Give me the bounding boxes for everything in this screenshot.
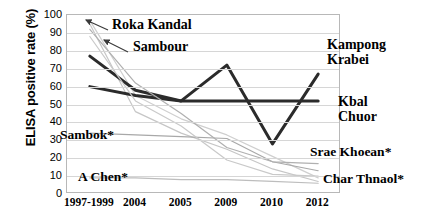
- y-tick-40: 40: [28, 115, 62, 127]
- annotation-roka-kandal: Roka Kandal: [112, 18, 192, 33]
- annotation-chuor: Chuor: [338, 110, 377, 125]
- x-tick-2005: 2005: [169, 196, 192, 208]
- elisa-positive-rate-line-chart: ELISA positive rate (%) 0102030405060708…: [0, 0, 433, 220]
- gridline-20: [67, 158, 339, 159]
- y-tick-30: 30: [28, 133, 62, 145]
- y-tick-10: 10: [28, 169, 62, 181]
- annotation-kampong: Kampong: [327, 38, 386, 53]
- y-tick-0: 0: [28, 187, 62, 199]
- annotation-kbal: Kbal: [338, 95, 368, 110]
- annotation-sambour: Sambour: [133, 40, 188, 55]
- series-line-sambok: [90, 133, 318, 171]
- gridline-90: [67, 33, 339, 34]
- gridline-70: [67, 69, 339, 70]
- y-axis-tick-labels: 0102030405060708090100: [28, 0, 62, 220]
- series-line-char-thnaol: [90, 36, 318, 176]
- y-tick-100: 100: [28, 8, 62, 20]
- x-tick-2009: 2009: [214, 196, 237, 208]
- gridline-50: [67, 105, 339, 106]
- y-tick-50: 50: [28, 98, 62, 110]
- gridline-40: [67, 122, 339, 123]
- series-line-roka-kandal: [90, 20, 318, 178]
- y-tick-70: 70: [28, 62, 62, 74]
- x-tick-2004: 2004: [123, 196, 146, 208]
- y-tick-90: 90: [28, 26, 62, 38]
- annotation-krabei: Krabei: [327, 53, 369, 68]
- y-tick-60: 60: [28, 80, 62, 92]
- x-axis-tick-labels: 1997-199920042005200920102012: [66, 196, 340, 218]
- y-tick-80: 80: [28, 44, 62, 56]
- annotation-sambok: Sambok*: [60, 128, 114, 142]
- annotation-a-chen: A Chen*: [78, 170, 128, 184]
- x-tick-2010: 2010: [260, 196, 283, 208]
- annotation-char-thnaol: Char Thnaol*: [323, 172, 404, 186]
- x-tick-1997-1999: 1997-1999: [64, 196, 114, 208]
- gridline-80: [67, 51, 339, 52]
- y-tick-20: 20: [28, 151, 62, 163]
- plot-area: [66, 14, 340, 193]
- gridline-60: [67, 87, 339, 88]
- annotation-srae-khoean: Srae Khoean*: [310, 145, 391, 159]
- x-tick-2012: 2012: [306, 196, 329, 208]
